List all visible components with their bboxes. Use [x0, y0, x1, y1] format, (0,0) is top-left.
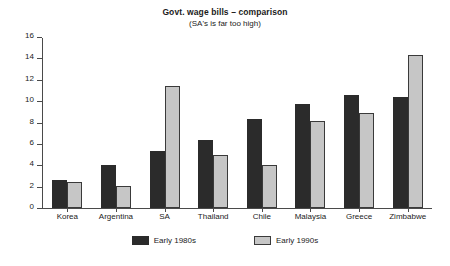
bar	[101, 165, 116, 208]
y-axis-tick-label: 10	[25, 95, 34, 104]
y-axis-tick-label: 6	[30, 138, 34, 147]
bar	[52, 180, 67, 208]
y-axis-tick: 6	[37, 144, 42, 145]
bar	[67, 182, 82, 208]
legend-swatch	[254, 236, 271, 245]
x-axis-line	[42, 208, 432, 209]
y-axis-tick: 16	[37, 37, 42, 38]
y-axis-tick-label: 12	[25, 74, 34, 83]
bar-group	[92, 38, 141, 208]
y-axis-tick-label: 0	[30, 202, 34, 211]
x-axis-tick-label: Zimbabwe	[383, 212, 432, 221]
y-axis-tick-label: 8	[30, 117, 34, 126]
chart-figure: Govt. wage bills – comparison (SA's is f…	[0, 0, 450, 266]
x-axis-tick-label: Korea	[43, 212, 92, 221]
bar-groups	[43, 38, 432, 208]
bar	[408, 55, 423, 208]
legend-item: Early 1980s	[132, 236, 196, 245]
legend-label: Early 1990s	[276, 236, 318, 245]
x-axis-tick-label: Greece	[335, 212, 384, 221]
bar	[310, 121, 325, 208]
y-axis-tick-label: 4	[30, 159, 34, 168]
chart-subtitle: (SA's is far too high)	[0, 19, 450, 28]
x-axis-tick-labels: KoreaArgentinaSAThailandChileMalaysiaGre…	[43, 212, 432, 221]
x-axis-tick-label: Argentina	[92, 212, 141, 221]
y-axis-tick: 14	[37, 58, 42, 59]
x-axis-tick-label: Thailand	[189, 212, 238, 221]
bar	[262, 165, 277, 208]
bar	[116, 186, 131, 208]
bar-group	[286, 38, 335, 208]
y-axis-tick-label: 2	[30, 181, 34, 190]
bar	[150, 151, 165, 208]
y-axis-tick: 0	[37, 208, 42, 209]
y-axis-tick: 2	[37, 187, 42, 188]
y-axis-tick-label: 16	[25, 31, 34, 40]
bar-group	[43, 38, 92, 208]
chart-title: Govt. wage bills – comparison	[0, 8, 450, 18]
bar	[295, 104, 310, 208]
y-axis-tick: 8	[37, 123, 42, 124]
y-axis-tick-label: 14	[25, 52, 34, 61]
bar-group	[383, 38, 432, 208]
bar	[165, 86, 180, 208]
y-axis-tick: 10	[37, 101, 42, 102]
legend-swatch	[132, 236, 149, 245]
bar	[198, 140, 213, 208]
chart-title-block: Govt. wage bills – comparison (SA's is f…	[0, 8, 450, 28]
bar	[344, 95, 359, 208]
y-axis-tick: 4	[37, 165, 42, 166]
bar-group	[238, 38, 287, 208]
bar	[359, 113, 374, 208]
bar	[247, 119, 262, 208]
bar	[393, 97, 408, 208]
x-axis-tick-label: Malaysia	[286, 212, 335, 221]
legend-item: Early 1990s	[254, 236, 318, 245]
bar	[213, 155, 228, 208]
bar-group	[189, 38, 238, 208]
chart-legend: Early 1980sEarly 1990s	[0, 236, 450, 245]
legend-label: Early 1980s	[154, 236, 196, 245]
x-axis-tick-label: Chile	[238, 212, 287, 221]
x-axis-tick-label: SA	[140, 212, 189, 221]
plot-area: 0246810121416	[42, 38, 432, 209]
bar-group	[140, 38, 189, 208]
y-axis-tick: 12	[37, 80, 42, 81]
bar-group	[335, 38, 384, 208]
